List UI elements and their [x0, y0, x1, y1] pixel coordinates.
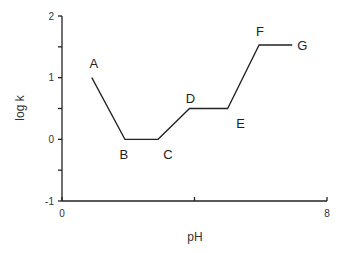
point-label-g: G: [297, 38, 307, 53]
y-tick-label: 2: [48, 11, 54, 22]
x-tick-label: 8: [324, 208, 330, 219]
y-tick-label: 1: [48, 72, 54, 83]
x-axis-title: pH: [187, 230, 202, 244]
chart: -101208 ABCDEFG log k pH: [0, 0, 341, 253]
y-tick-label: -1: [45, 196, 54, 207]
y-tick-label: 0: [48, 134, 54, 145]
plot-area: ABCDEFG: [89, 24, 307, 162]
point-label-e: E: [236, 116, 245, 131]
point-label-a: A: [89, 56, 98, 71]
x-tick-label: 0: [59, 208, 65, 219]
axes: -101208: [45, 11, 330, 220]
point-label-d: D: [186, 91, 195, 106]
point-label-f: F: [256, 24, 264, 39]
point-label-b: B: [120, 147, 129, 162]
point-label-c: C: [163, 147, 172, 162]
y-axis-title: log k: [13, 94, 27, 120]
